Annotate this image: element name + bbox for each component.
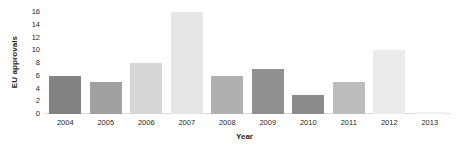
x-tick-label: 2007 <box>167 118 208 128</box>
y-tick-label: 10 <box>24 47 40 55</box>
bar <box>171 12 203 114</box>
bar <box>333 82 365 114</box>
x-tick-label: 2006 <box>126 118 167 128</box>
x-tick-label: 2004 <box>45 118 86 128</box>
bar <box>292 95 324 114</box>
bar <box>130 63 162 114</box>
x-tick-label: 2012 <box>369 118 410 128</box>
y-axis-title: EU approvals <box>8 2 22 122</box>
x-tick-label: 2013 <box>410 118 451 128</box>
y-axis-tick-labels: 0246810121416 <box>24 12 40 114</box>
plot-area <box>45 12 450 114</box>
x-tick-label: 2009 <box>248 118 289 128</box>
y-tick-label: 2 <box>24 98 40 106</box>
y-tick-label: 8 <box>24 59 40 67</box>
x-tick-label: 2011 <box>329 118 370 128</box>
y-tick-label: 12 <box>24 34 40 42</box>
bar <box>373 50 405 114</box>
x-tick-label: 2005 <box>86 118 127 128</box>
y-tick-label: 14 <box>24 21 40 29</box>
y-tick-label: 4 <box>24 85 40 93</box>
y-tick-label: 16 <box>24 8 40 16</box>
bar <box>90 82 122 114</box>
x-axis-title: Year <box>0 132 457 142</box>
bar <box>414 112 446 114</box>
y-tick-label: 0 <box>24 110 40 118</box>
bar <box>252 69 284 114</box>
y-tick-label: 6 <box>24 72 40 80</box>
bar-chart: EU approvals 0246810121416 2004200520062… <box>0 0 457 150</box>
bar <box>211 76 243 114</box>
x-tick-label: 2010 <box>288 118 329 128</box>
x-tick-label: 2008 <box>207 118 248 128</box>
x-axis-tick-labels: 2004200520062007200820092010201120122013 <box>45 118 450 130</box>
bar <box>49 76 81 114</box>
